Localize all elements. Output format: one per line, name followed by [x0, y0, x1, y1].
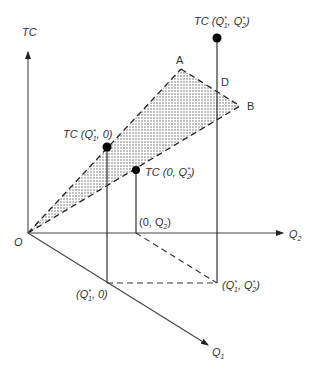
- vertex-a-label: A: [176, 54, 184, 66]
- label-tc-q1-q2: TC (Q*1, Q*2): [194, 15, 250, 29]
- cost-diagram: TC Q2 Q1 O TC (Q*1, Q*2) TC (Q*1, 0) TC …: [0, 0, 318, 373]
- point-tc-q1-0: [103, 143, 112, 152]
- vertex-d-label: D: [221, 76, 229, 88]
- label-base-0-q2: (0, Q2): [139, 216, 171, 230]
- point-tc-q1-q2: [213, 34, 222, 43]
- label-tc-q1-0: TC (Q*1, 0): [63, 128, 113, 142]
- q2-axis-label: Q2: [289, 228, 302, 242]
- shaded-cost-plane: [28, 69, 240, 233]
- q1-axis-label: Q1: [212, 346, 225, 360]
- label-tc-0-q2: TC (0, Q*2): [145, 166, 195, 180]
- label-base-q1-0: (Q*1, 0): [76, 288, 108, 302]
- base-projection: [107, 233, 217, 283]
- tc-axis-label: TC: [22, 26, 37, 38]
- label-base-q1-q2: (Q*1, Q*2): [222, 279, 260, 293]
- point-tc-0-q2: [132, 166, 140, 174]
- origin-label: O: [14, 236, 23, 248]
- q1-axis: [28, 233, 208, 345]
- vertex-b-label: B: [247, 100, 254, 112]
